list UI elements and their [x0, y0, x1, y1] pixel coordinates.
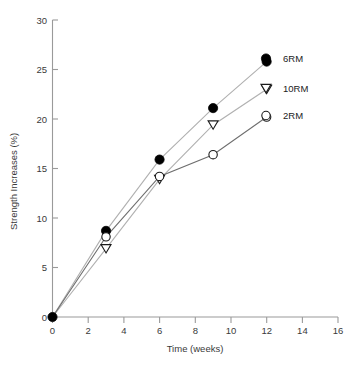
x-tick-label-4: 4 [121, 325, 126, 336]
y-tick-label-10: 10 [36, 213, 47, 224]
marker-6rm-w0 [48, 312, 57, 321]
x-tick-label-0: 0 [50, 325, 55, 336]
legend-marker-2rm [262, 111, 270, 119]
x-tick-label-6: 6 [157, 325, 162, 336]
marker-2rm-w3 [102, 233, 110, 241]
chart-figure: 30 25 20 15 10 5 0 Strength Increases (%… [0, 0, 361, 370]
x-axis-title: Time (weeks) [167, 343, 224, 354]
marker-2rm-w6 [155, 172, 163, 180]
legend-marker-6rm [261, 54, 270, 63]
x-tick-label-16: 16 [333, 325, 344, 336]
x-tick-label-12: 12 [261, 325, 272, 336]
y-tick-label-5: 5 [42, 262, 47, 273]
x-tick-label-10: 10 [226, 325, 237, 336]
y-axis-title: Strength Increases (%) [8, 133, 19, 230]
legend-label-10rm: 10RM [283, 83, 308, 94]
y-tick-label-0: 0 [42, 312, 47, 323]
line-chart-svg: 30 25 20 15 10 5 0 Strength Increases (%… [0, 0, 361, 370]
x-tick-label-14: 14 [297, 325, 308, 336]
marker-6rm-w9 [208, 104, 217, 113]
marker-6rm-w6 [155, 155, 164, 164]
x-tick-label-8: 8 [193, 325, 198, 336]
y-tick-label-20: 20 [36, 114, 47, 125]
marker-2rm-w9 [209, 150, 217, 158]
y-tick-label-30: 30 [36, 15, 47, 26]
x-tick-label-2: 2 [86, 325, 91, 336]
legend-label-6rm: 6RM [283, 53, 303, 64]
legend-label-2rm: 2RM [283, 110, 303, 121]
y-tick-label-15: 15 [36, 163, 47, 174]
y-tick-label-25: 25 [36, 64, 47, 75]
